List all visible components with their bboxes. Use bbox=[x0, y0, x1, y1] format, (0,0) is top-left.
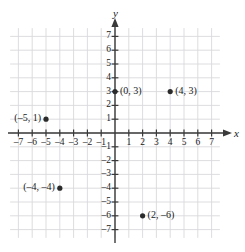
x-axis-arrowhead bbox=[223, 129, 232, 136]
y-axis-label: y bbox=[113, 8, 118, 19]
data-point-label: (2, –6) bbox=[148, 210, 175, 220]
x-tick-label: 7 bbox=[203, 138, 221, 148]
y-axis-arrowhead bbox=[111, 18, 118, 27]
coordinate-plane-svg bbox=[0, 0, 245, 252]
data-point-label: (–4, –4) bbox=[23, 182, 55, 192]
y-tick-label: –3 bbox=[93, 169, 111, 179]
y-tick-label: –5 bbox=[93, 197, 111, 207]
y-tick-label: 7 bbox=[93, 31, 111, 41]
x-axis-label: x bbox=[234, 128, 239, 139]
data-point-marker bbox=[43, 117, 48, 122]
data-point-marker bbox=[168, 89, 173, 94]
data-point-marker bbox=[57, 186, 62, 191]
y-tick-label: 3 bbox=[93, 87, 111, 97]
y-tick-label: –4 bbox=[93, 183, 111, 193]
y-tick-label: 1 bbox=[93, 114, 111, 124]
data-point-label: (0, 3) bbox=[120, 86, 142, 96]
y-tick-label: –7 bbox=[93, 225, 111, 235]
y-tick-label: –2 bbox=[93, 156, 111, 166]
y-tick-label: 4 bbox=[93, 73, 111, 83]
y-tick-label: –6 bbox=[93, 211, 111, 221]
data-point-label: (–5, 1) bbox=[14, 113, 41, 123]
y-tick-label: 6 bbox=[93, 45, 111, 55]
y-tick-label: 5 bbox=[93, 59, 111, 69]
y-tick-label: 2 bbox=[93, 100, 111, 110]
data-point-marker bbox=[140, 213, 145, 218]
coordinate-plane-figure: –7–6–5–4–3–2–112345677654321–1–2–3–4–5–6… bbox=[0, 0, 245, 252]
data-point-label: (4, 3) bbox=[175, 86, 197, 96]
data-point-marker bbox=[112, 89, 117, 94]
y-tick-label: –1 bbox=[93, 142, 111, 152]
